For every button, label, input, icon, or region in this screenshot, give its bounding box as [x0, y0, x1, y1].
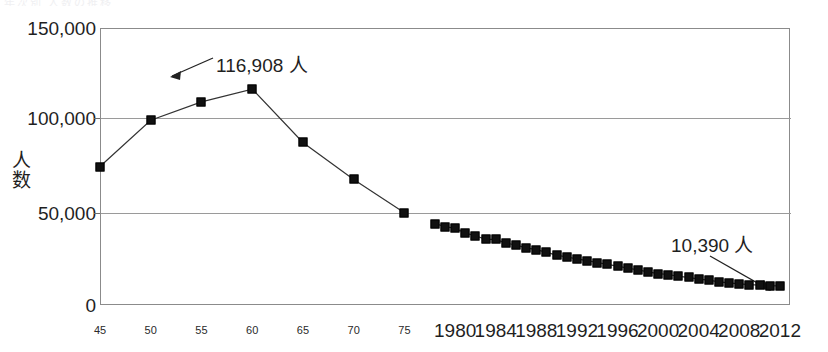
data-point: [461, 228, 470, 237]
data-point: [248, 85, 257, 94]
x-tick-label: 70: [348, 324, 360, 336]
data-point: [745, 280, 754, 289]
data-point: [725, 278, 734, 287]
data-point: [197, 97, 206, 106]
data-point: [491, 235, 500, 244]
plot-area: [100, 28, 790, 305]
gridline-50000: [101, 213, 791, 214]
data-point: [572, 254, 581, 263]
y-tick-label-100000: 100,000: [4, 108, 96, 130]
data-point: [603, 260, 612, 269]
data-point: [643, 267, 652, 276]
data-point: [633, 265, 642, 274]
chart-root: 年次別 人数の推移 人数 150,000 100,000 50,000 0 45…: [0, 0, 828, 352]
data-point: [562, 252, 571, 261]
data-point: [714, 277, 723, 286]
data-point: [775, 281, 784, 290]
data-point: [583, 256, 592, 265]
data-point: [623, 264, 632, 273]
data-point: [684, 273, 693, 282]
data-point: [552, 251, 561, 260]
data-point: [654, 269, 663, 278]
data-point: [694, 275, 703, 284]
x-tick-label: 1996: [596, 320, 638, 342]
x-tick-label: 50: [145, 324, 157, 336]
x-tick-label: 2000: [637, 320, 679, 342]
y-tick-label-150000: 150,000: [4, 18, 96, 40]
x-tick-label: 65: [297, 324, 309, 336]
data-point: [441, 222, 450, 231]
x-tick-label: 1984: [475, 320, 517, 342]
annotation-peak-label: 116,908 人: [216, 50, 308, 77]
y-tick-label-50000: 50,000: [4, 203, 96, 225]
x-tick-label: 2004: [678, 320, 720, 342]
x-tick-label: 55: [195, 324, 207, 336]
data-point: [522, 243, 531, 252]
data-point: [532, 245, 541, 254]
data-point: [664, 270, 673, 279]
x-tick-label: 60: [246, 324, 258, 336]
data-point: [674, 272, 683, 281]
data-point: [298, 138, 307, 147]
data-point: [451, 224, 460, 233]
x-tick-label: 75: [398, 324, 410, 336]
x-tick-label: 2008: [718, 320, 760, 342]
data-point: [542, 248, 551, 257]
data-point: [96, 162, 105, 171]
y-tick-label-0: 0: [4, 295, 96, 317]
data-point: [765, 281, 774, 290]
data-point: [471, 231, 480, 240]
data-point: [349, 175, 358, 184]
gridline-100000: [101, 118, 791, 119]
data-point: [593, 258, 602, 267]
x-tick-label: 2012: [759, 320, 801, 342]
x-tick-label: 45: [94, 324, 106, 336]
x-tick-label: 1992: [556, 320, 598, 342]
y-axis-title: 人数: [6, 150, 33, 190]
y-axis: 人数 150,000 100,000 50,000 0: [0, 0, 96, 352]
data-point: [613, 262, 622, 271]
data-point: [400, 208, 409, 217]
x-tick-label: 1980: [434, 320, 476, 342]
data-point: [146, 116, 155, 125]
data-point: [735, 279, 744, 288]
data-point: [512, 240, 521, 249]
annotation-last-label: 10,390 人: [671, 230, 753, 257]
data-point: [501, 239, 510, 248]
x-tick-label: 1988: [515, 320, 557, 342]
data-point: [704, 276, 713, 285]
data-point: [755, 281, 764, 290]
data-point: [430, 219, 439, 228]
data-point: [481, 235, 490, 244]
